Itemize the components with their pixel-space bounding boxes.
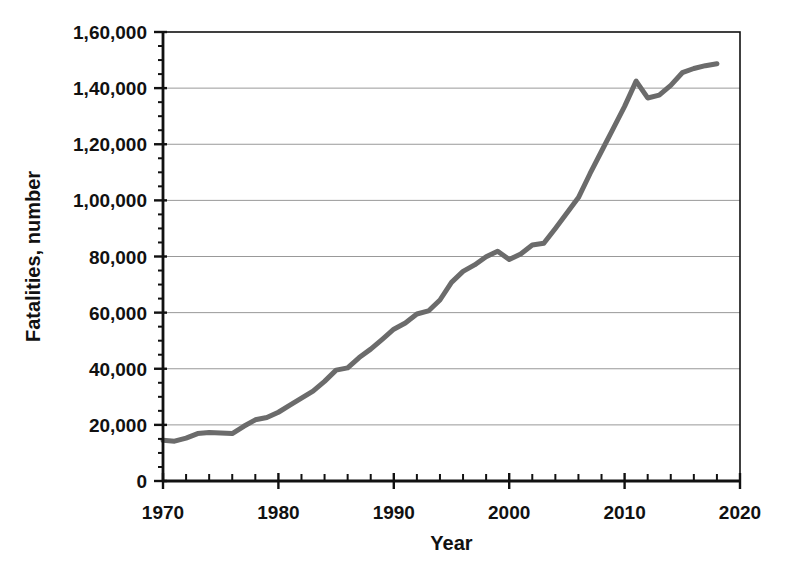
x-tick-label: 2010: [603, 502, 645, 523]
axis-ticks: [154, 32, 740, 489]
x-tick-label: 1970: [142, 502, 184, 523]
x-tick-label: 1990: [373, 502, 415, 523]
y-tick-label: 1,40,000: [73, 78, 147, 99]
x-tick-label: 1980: [257, 502, 299, 523]
y-tick-label: 60,000: [89, 303, 147, 324]
x-axis-title: Year: [430, 532, 472, 554]
fatalities-vs-year-line-chart: 020,00040,00060,00080,0001,00,0001,20,00…: [0, 0, 792, 583]
y-tick-label: 20,000: [89, 415, 147, 436]
y-tick-label: 80,000: [89, 247, 147, 268]
chart-canvas: 020,00040,00060,00080,0001,00,0001,20,00…: [0, 0, 792, 583]
y-tick-label: 40,000: [89, 359, 147, 380]
fatalities-line: [163, 64, 717, 441]
y-tick-label: 1,00,000: [73, 190, 147, 211]
x-tick-label: 2020: [719, 502, 761, 523]
gridlines: [163, 88, 740, 425]
axis-labels: 020,00040,00060,00080,0001,00,0001,20,00…: [22, 22, 761, 554]
y-tick-label: 0: [136, 471, 147, 492]
data-series: [163, 64, 717, 441]
y-axis-title: Fatalities, number: [22, 171, 44, 342]
x-tick-label: 2000: [488, 502, 530, 523]
y-tick-label: 1,60,000: [73, 22, 147, 43]
y-tick-label: 1,20,000: [73, 134, 147, 155]
